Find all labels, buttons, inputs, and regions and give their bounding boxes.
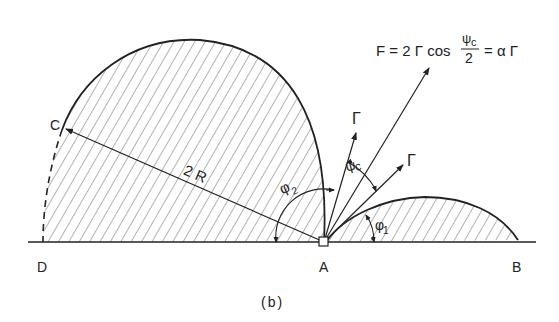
contact-angle-diagram: D A B C 2 R φ 2 ψ c φ 1 Γ Γ F = 2 Γ cos … [0, 0, 559, 322]
label-a: A [319, 259, 329, 275]
large-droplet-hatch [30, 30, 330, 244]
label-phi1-sub: 1 [383, 225, 389, 236]
force-equation: F = 2 Γ cos ψ c 2 = α Γ [376, 31, 518, 66]
label-b: B [512, 259, 521, 275]
label-gamma-right: Γ [407, 152, 416, 169]
figure-caption: (b) [261, 294, 284, 310]
equation-frac-num: ψ [462, 31, 471, 46]
label-c: C [50, 117, 60, 133]
label-d: D [37, 259, 47, 275]
equation-lhs: F = 2 Γ cos [376, 42, 451, 59]
equation-frac-num-sub: c [471, 36, 477, 48]
label-psi-group: ψ c [343, 155, 362, 176]
point-a-marker [319, 237, 328, 246]
equation-rhs: = α Γ [484, 42, 518, 59]
label-gamma-upper: Γ [352, 110, 361, 127]
equation-frac-den: 2 [465, 50, 473, 66]
